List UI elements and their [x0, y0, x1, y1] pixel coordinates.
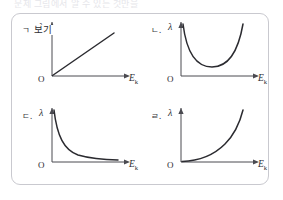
x-axis-label-d: Ek [258, 159, 267, 171]
y-axis-label-d: λ [168, 107, 172, 118]
y-axis-label-b: λ [168, 21, 172, 32]
item-tag-c: ㄷ. [22, 109, 32, 121]
origin-label-b: O [167, 74, 174, 84]
ghost-text-fragment: 문제 그림에서 알 수 있는 것만을 [14, 0, 138, 9]
bogi-box: 보기 ㄱ. λ O Ek ㄴ. [11, 13, 269, 185]
graph-cell-b: ㄴ. λ O Ek [141, 14, 270, 100]
x-axis-label-b: Ek [258, 73, 267, 85]
bogi-label: 보기 [30, 25, 57, 35]
item-tag-b: ㄴ. [151, 23, 161, 35]
scan-top-ghost-text: 문제 그림에서 알 수 있는 것만을 [0, 0, 283, 9]
x-axis-label-c: Ek [129, 159, 138, 171]
graph-cell-c: ㄷ. λ O Ek [12, 100, 141, 186]
plot-b-ushape: λ O Ek [167, 20, 263, 90]
origin-label-c: O [38, 160, 45, 170]
plot-d-exponential: λ O Ek [167, 106, 263, 176]
x-axis-label-a: Ek [129, 73, 138, 85]
graph-grid: ㄱ. λ O Ek ㄴ. [12, 14, 270, 186]
y-axis-label-c: λ [39, 107, 43, 118]
item-tag-d: ㄹ. [151, 109, 161, 121]
origin-label-a: O [38, 74, 45, 84]
graph-cell-d: ㄹ. λ O Ek [141, 100, 270, 186]
plot-c-inverse: λ O Ek [38, 106, 134, 176]
origin-label-d: O [167, 160, 174, 170]
